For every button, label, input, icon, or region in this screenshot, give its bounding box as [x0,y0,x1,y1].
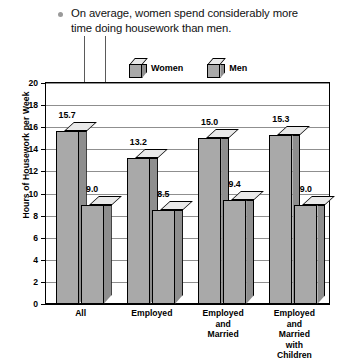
bar-top-face [160,201,193,210]
bar-front-face [269,135,292,304]
x-axis-label-1: Employed [116,308,187,319]
bar-women-3 [269,135,292,304]
legend-label-men: Men [229,63,247,73]
bar-women-0 [56,131,79,304]
y-axis-label: 14 [8,144,38,154]
caption-text: On average, women spend considerably mor… [71,6,320,36]
bar-men-2 [223,200,246,304]
y-axis-label: 6 [8,233,38,243]
y-axis-tick [41,171,46,172]
bar-top-face [302,196,335,205]
y-axis-label: 2 [8,277,38,287]
bar-value-label: 9.0 [75,184,110,194]
cube-icon [129,58,147,78]
bar-top-face [89,196,122,205]
y-axis-label: 10 [8,189,38,199]
bar-front-face [223,200,246,304]
chart-caption: On average, women spend considerably mor… [58,6,320,36]
gridline [46,105,329,106]
bar-front-face [81,205,104,304]
y-axis-label: 18 [8,100,38,110]
y-axis-tick [41,282,46,283]
bar-top-face [135,149,168,158]
y-axis-tick [41,260,46,261]
bar-value-label: 15.0 [192,117,227,127]
y-axis-label: 16 [8,122,38,132]
bar-side-face [317,205,325,304]
bar-value-label: 9.0 [288,184,323,194]
y-axis-tick [41,83,46,84]
y-axis-tick [41,238,46,239]
y-axis-tick [41,105,46,106]
bar-top-face [206,129,239,138]
x-axis-label-2: EmployedandMarried [188,308,259,340]
y-axis-label: 4 [8,255,38,265]
bar-side-face [175,210,183,304]
y-axis-label: 8 [8,211,38,221]
bar-front-face [294,205,317,304]
bar-value-label: 15.7 [50,110,85,120]
y-axis-label: 12 [8,166,38,176]
bar-women-1 [127,158,150,304]
bar-front-face [127,158,150,304]
x-axis-label-3: EmployedandMarriedwithChildren [259,308,330,361]
bar-value-label: 8.5 [146,189,181,199]
bar-front-face [56,131,79,304]
bar-front-face [198,138,221,304]
y-axis-tick [41,127,46,128]
bar-top-face [64,122,97,131]
bar-men-1 [152,210,175,304]
chart-legend: Women Men [129,58,247,78]
bar-value-label: 15.3 [263,114,298,124]
bar-side-face [104,205,112,304]
legend-item-men: Men [207,58,247,78]
legend-item-women: Women [129,58,183,78]
bar-side-face [246,200,254,304]
bar-value-label: 9.4 [217,179,252,189]
y-axis-tick [41,304,46,305]
y-axis-label: 20 [8,78,38,88]
cube-icon [207,58,225,78]
y-axis-tick [41,194,46,195]
bullet-dot-icon [58,12,63,17]
y-axis-label: 0 [8,299,38,309]
bar-men-0 [81,205,104,304]
leader-line-left [84,36,85,82]
bar-women-2 [198,138,221,304]
leader-line-right [105,36,106,82]
legend-label-women: Women [151,63,183,73]
bar-front-face [152,210,175,304]
x-axis-label-0: All [45,308,116,319]
bar-value-label: 13.2 [121,137,156,147]
y-axis-tick [41,216,46,217]
gridline [46,83,329,84]
bar-men-3 [294,205,317,304]
plot-area: 2018161412108642015.79.013.28.515.09.415… [45,82,330,305]
y-axis-tick [41,149,46,150]
bar-top-face [231,191,264,200]
